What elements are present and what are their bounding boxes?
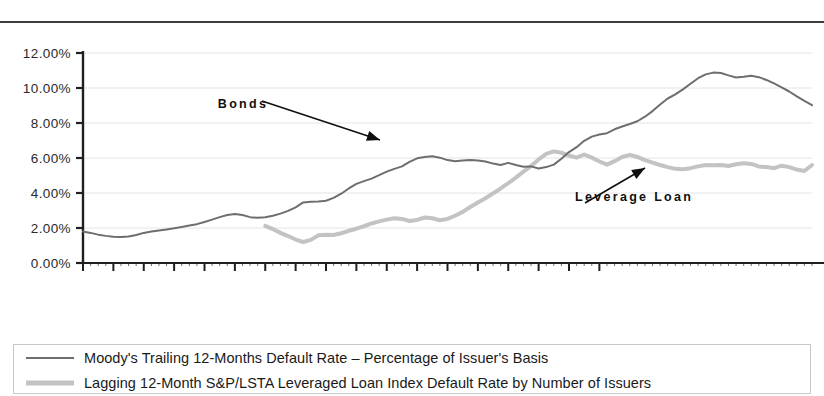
chart-legend: Moody's Trailing 12-Months Default Rate … (13, 344, 811, 394)
legend-item-leveraged-loan: Lagging 12-Month S&P/LSTA Leveraged Loan… (14, 370, 810, 395)
legend-item-bonds: Moody's Trailing 12-Months Default Rate … (14, 345, 810, 370)
chart-plot-area: 12.00%10.00%8.00%6.00%4.00%2.00%0.00% Ja… (0, 24, 824, 274)
gridlines (83, 53, 812, 228)
y-tick-label: 4.00% (31, 186, 71, 201)
legend-label-leveraged-loan: Lagging 12-Month S&P/LSTA Leveraged Loan… (84, 375, 651, 391)
series-line-bonds (83, 73, 812, 238)
annotation-layer: BondsLeverage Loan (218, 97, 693, 204)
y-tick-label: 8.00% (31, 116, 71, 131)
y-tick-label: 0.00% (31, 256, 71, 271)
chart-page: 12.00%10.00%8.00%6.00%4.00%2.00%0.00% Ja… (0, 0, 824, 396)
annotation-arrow-head-icon (366, 131, 380, 141)
legend-swatch-line-icon (26, 377, 74, 389)
y-axis-tick-labels: 12.00%10.00%8.00%6.00%4.00%2.00%0.00% (23, 46, 71, 271)
annotation-label: Bonds (218, 97, 268, 111)
default-rate-line-chart: 12.00%10.00%8.00%6.00%4.00%2.00%0.00% Ja… (0, 24, 824, 274)
annotation-arrow-head-icon (631, 168, 645, 179)
annotation-label: Leverage Loan (575, 190, 693, 204)
cropped-title-sliver (0, 0, 824, 19)
data-series-layer (83, 73, 812, 242)
y-tick-label: 10.00% (23, 81, 71, 96)
legend-label-bonds: Moody's Trailing 12-Months Default Rate … (84, 350, 548, 366)
legend-swatch-line-icon (26, 352, 74, 364)
header-rule (0, 21, 824, 23)
annotation-arrow-shaft (262, 101, 380, 140)
y-tick-label: 6.00% (31, 151, 71, 166)
y-tick-label: 12.00% (23, 46, 71, 61)
y-tick-label: 2.00% (31, 221, 71, 236)
